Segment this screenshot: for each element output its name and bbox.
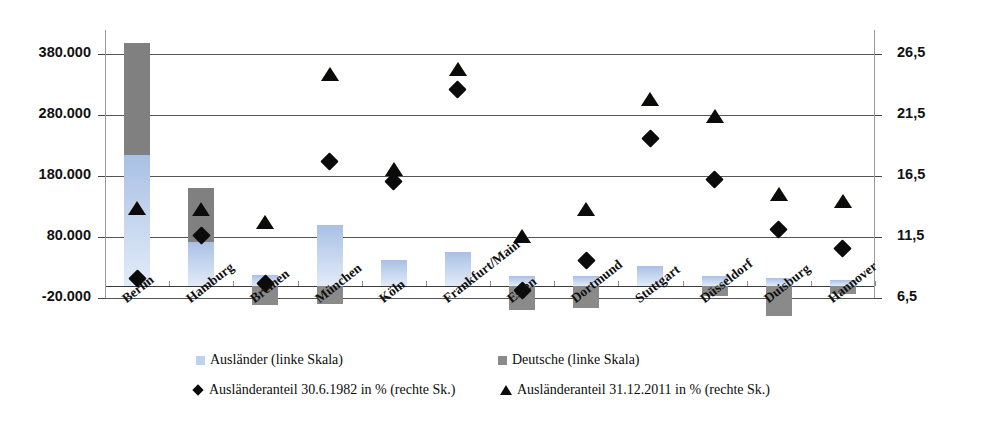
bar-deutsche [124,43,150,154]
x-minor-tick [233,281,234,286]
left-axis-tick-label: 180.000 [0,166,91,182]
marker-diamond-1982 [577,251,595,269]
right-axis-tick-label: 21,5 [897,105,925,121]
legend-row-1: Ausländer (linke Skala) Deutsche (linke … [0,352,983,374]
gridline-left-4 [105,298,875,299]
x-minor-tick [875,281,876,286]
left-axis-tick-label: -20.000 [0,288,91,304]
tick-right-2 [875,176,882,177]
gridline-left-2 [105,176,875,177]
bar-auslaender [124,155,150,286]
legend-swatch-blue-icon [196,356,205,365]
x-minor-tick [169,281,170,286]
left-axis-tick-label: 380.000 [0,44,91,60]
right-axis-tick-label: 16,5 [897,166,925,182]
gridline-left-1 [105,115,875,116]
x-minor-tick [683,281,684,286]
marker-diamond-1982 [834,239,852,257]
chart-root: 380.000280.000180.00080.000-20.000 26,52… [0,0,983,440]
tick-right-4 [875,298,882,299]
x-minor-tick [298,281,299,286]
marker-triangle-2011 [706,109,724,123]
left-axis-line [105,30,106,298]
legend-label-auslaender: Ausländer (linke Skala) [210,352,343,368]
tick-left-0 [98,54,105,55]
marker-triangle-2011 [770,187,788,201]
legend-label-anteil-2011: Ausländeranteil 31.12.2011 in % (rechte … [517,382,770,398]
marker-triangle-2011 [321,67,339,81]
marker-triangle-2011 [192,202,210,216]
zero-baseline [105,286,875,287]
x-minor-tick [362,281,363,286]
legend-item-anteil-2011[interactable]: Ausländeranteil 31.12.2011 in % (rechte … [500,382,770,398]
tick-left-3 [98,237,105,238]
gridline-left-0 [105,54,875,55]
legend-label-deutsche: Deutsche (linke Skala) [512,352,640,368]
marker-diamond-1982 [449,80,467,98]
x-minor-tick [618,281,619,286]
marker-triangle-2011 [256,215,274,229]
right-axis-line [874,30,875,298]
x-minor-tick [426,281,427,286]
gridline-left-3 [105,237,875,238]
x-minor-tick [554,281,555,286]
right-axis-tick-label: 11,5 [897,227,924,243]
tick-right-1 [875,115,882,116]
tick-right-0 [875,54,882,55]
left-axis-tick-label: 280.000 [0,105,91,121]
tick-right-3 [875,237,882,238]
right-axis-tick-label: 6,5 [897,288,917,304]
tick-left-1 [98,115,105,116]
marker-triangle-2011 [128,201,146,215]
x-minor-tick [811,281,812,286]
left-axis-tick-label: 80.000 [0,227,91,243]
tick-left-4 [98,298,105,299]
marker-triangle-2011 [577,202,595,216]
legend-triangle-icon [500,385,512,395]
legend-item-anteil-1982[interactable]: Ausländeranteil 30.6.1982 in % (rechte S… [192,382,456,398]
marker-diamond-1982 [705,171,723,189]
legend-item-deutsche[interactable]: Deutsche (linke Skala) [498,352,640,368]
right-axis-tick-label: 26,5 [897,44,925,60]
legend-diamond-icon [192,384,203,395]
tick-left-2 [98,176,105,177]
marker-diamond-1982 [320,152,338,170]
x-minor-tick [490,281,491,286]
legend-row-2: Ausländeranteil 30.6.1982 in % (rechte S… [0,382,983,404]
marker-diamond-1982 [641,129,659,147]
legend-swatch-gray-icon [498,356,507,365]
x-minor-tick [747,281,748,286]
legend-label-anteil-1982: Ausländeranteil 30.6.1982 in % (rechte S… [209,382,456,398]
marker-triangle-2011 [641,92,659,106]
legend-item-auslaender[interactable]: Ausländer (linke Skala) [196,352,343,368]
marker-triangle-2011 [834,194,852,208]
marker-triangle-2011 [449,62,467,76]
